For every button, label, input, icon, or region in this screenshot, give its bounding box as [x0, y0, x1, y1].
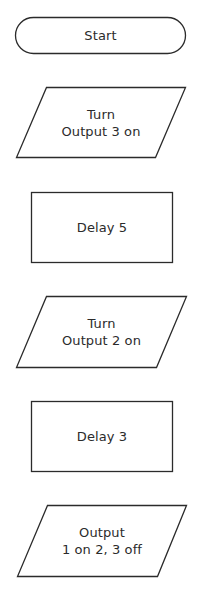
turn-output-3-on-label: Turn Output 3 on: [16, 87, 186, 158]
turn-output-3-on-line-2: Output 3 on: [62, 123, 141, 140]
start-label-line-1: Start: [84, 27, 116, 44]
output-1-on-2-3-off-label: Output 1 on 2, 3 off: [17, 505, 187, 577]
delay-3-line-1: Delay 3: [77, 428, 127, 445]
output-1-on-2-3-off-line-2: 1 on 2, 3 off: [62, 541, 142, 558]
turn-output-2-on-line-1: Turn: [88, 315, 116, 332]
turn-output-3-on-line-1: Turn: [87, 106, 115, 123]
output-1-on-2-3-off-line-1: Output: [79, 524, 125, 541]
delay-5-line-1: Delay 5: [77, 219, 127, 236]
delay-5-label: Delay 5: [31, 192, 173, 263]
turn-output-2-on-label: Turn Output 2 on: [16, 296, 187, 368]
delay-3-label: Delay 3: [31, 401, 173, 472]
flowchart: Start Turn Output 3 on Delay 5 Turn Outp…: [0, 0, 197, 604]
start-label: Start: [15, 17, 186, 54]
turn-output-2-on-line-2: Output 2 on: [62, 332, 141, 349]
